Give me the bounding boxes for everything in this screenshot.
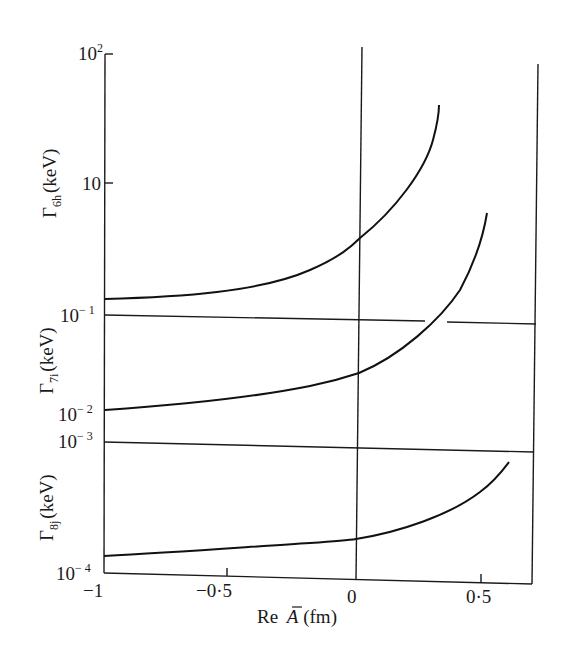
x-zero-line [356,47,362,580]
x-tick-labels: −1 −0·5 0 0·5 [83,580,491,607]
curves [104,105,509,556]
x-axis-title: Re A (fm) [257,606,337,628]
y-tick-label-1e2: 102 [78,41,103,64]
x-tick-label-m05: −0·5 [196,580,232,601]
y-axis-line [104,54,105,573]
separator-1em1-b [447,322,536,324]
y-tick-labels: 102 10 10− 1 10− 2 10− 3 10− 4 [56,41,103,584]
x-tick-label-0: 0 [347,586,357,607]
ylabel-gamma-7i: Γ7i(keV) [36,327,61,394]
curve-gamma-7i [105,213,487,410]
y-tick-label-10: 10 [82,173,101,194]
x-tick-label-05: 0·5 [466,586,491,607]
y-tick-label-1em1: 10− 1 [60,303,95,326]
ylabel-gamma-6h: Γ6h(keV) [39,149,64,218]
y-tick-label-1em2: 10− 2 [58,402,93,425]
x-tick-label-m1: −1 [83,580,103,601]
curve-gamma-6h [105,105,439,299]
x-axis-line [104,573,532,584]
stacked-log-chart: 102 10 10− 1 10− 2 10− 3 10− 4 Γ6h(keV) … [0,0,566,657]
xlabel: Re A (fm) [257,606,337,628]
ylabel-gamma-8j: Γ8j(keV) [36,474,61,541]
separator-1em3 [104,442,533,452]
separator-1em1-a [105,315,425,321]
curve-gamma-8j [104,462,509,556]
y-tick-label-1em3: 10− 3 [58,429,93,452]
axes [104,47,538,584]
y-axis-titles: Γ6h(keV) Γ7i(keV) Γ8j(keV) [36,149,64,541]
